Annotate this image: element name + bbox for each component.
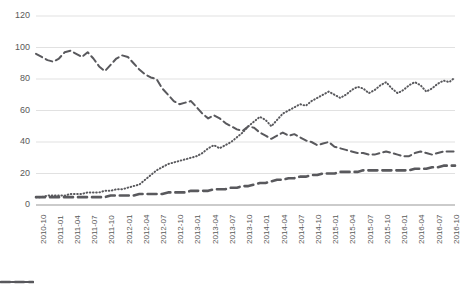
y-tick-label: 0 [0, 200, 30, 209]
line-chart: 020406080100120 2010-102011-012011-04201… [0, 0, 460, 284]
x-tick-label: 2013-01 [194, 215, 202, 244]
y-tick-label: 100 [0, 43, 30, 52]
series-line-3 [36, 77, 455, 197]
x-tick-label: 2014-10 [315, 215, 323, 244]
x-tick-label: 2011-01 [57, 215, 65, 244]
y-tick-label: 60 [0, 106, 30, 115]
y-tick-label: 120 [0, 11, 30, 20]
x-tick-label: 2015-01 [332, 215, 340, 244]
series-line-1 [36, 51, 455, 157]
x-tick-label: 2015-07 [367, 215, 375, 244]
x-tick-label: 2014-07 [298, 215, 306, 244]
x-tick-label: 2016-10 [453, 215, 460, 244]
x-tick-label: 2013-04 [212, 215, 220, 244]
x-tick-label: 2012-10 [177, 215, 185, 244]
x-tick-label: 2011-10 [108, 215, 116, 244]
x-tick-label: 2014-01 [263, 215, 271, 244]
x-tick-label: 2016-01 [401, 215, 409, 244]
legend-swatch-dotted [0, 278, 34, 284]
y-tick-label: 20 [0, 169, 30, 178]
x-tick-label: 2013-07 [229, 215, 237, 244]
y-tick-label: 40 [0, 137, 30, 146]
x-tick-label: 2011-07 [91, 215, 99, 244]
x-tick-label: 2016-07 [436, 215, 444, 244]
x-tick-label: 2012-07 [160, 215, 168, 244]
x-tick-label: 2012-01 [126, 215, 134, 244]
y-tick-label: 80 [0, 74, 30, 83]
x-tick-label: 2014-04 [281, 215, 289, 244]
x-tick-label: 2013-10 [246, 215, 254, 244]
x-tick-label: 2011-04 [74, 215, 82, 244]
x-tick-label: 2015-10 [384, 215, 392, 244]
x-tick-label: 2015-04 [349, 215, 357, 244]
x-tick-label: 2012-04 [143, 215, 151, 244]
x-tick-label: 2016-04 [418, 215, 426, 244]
x-tick-label: 2010-10 [40, 215, 48, 244]
